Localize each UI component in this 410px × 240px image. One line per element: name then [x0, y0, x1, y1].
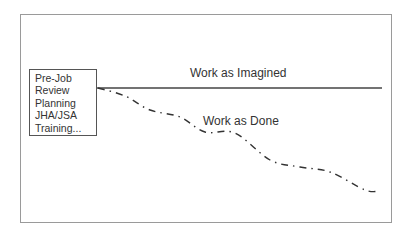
- planning-activities-box: Pre-Job Review Planning JHA/JSA Training…: [29, 69, 97, 136]
- work-as-done-label: Work as Done: [203, 114, 279, 128]
- planning-item-planning: Planning: [35, 97, 96, 109]
- planning-item-jha-jsa: JHA/JSA: [35, 109, 96, 121]
- work-as-done-line: [98, 88, 380, 192]
- planning-item-pre-job: Pre-Job: [35, 72, 96, 84]
- planning-item-review: Review: [35, 84, 96, 96]
- work-as-imagined-label: Work as Imagined: [190, 66, 287, 80]
- planning-item-training: Training...: [35, 122, 96, 134]
